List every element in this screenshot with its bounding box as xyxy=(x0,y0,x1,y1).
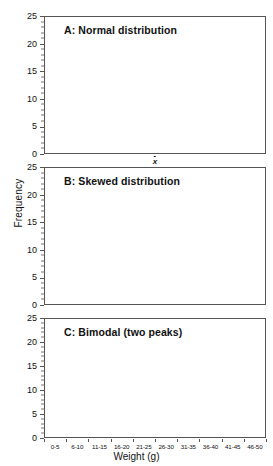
y-minor-tick xyxy=(41,238,44,239)
x-tick-label: 0-5 xyxy=(51,443,60,450)
y-minor-tick xyxy=(41,293,44,294)
y-minor-tick xyxy=(41,65,44,66)
y-minor-tick xyxy=(41,76,44,77)
y-minor-tick xyxy=(41,54,44,55)
y-minor-tick xyxy=(41,433,44,434)
y-minor-tick xyxy=(41,216,44,217)
y-tick-label: 5 xyxy=(32,121,44,131)
y-minor-tick xyxy=(41,288,44,289)
y-minor-tick xyxy=(41,120,44,121)
y-minor-tick xyxy=(41,409,44,410)
y-minor-tick xyxy=(41,137,44,138)
y-minor-tick xyxy=(41,266,44,267)
y-minor-tick xyxy=(41,211,44,212)
x-tick-label: 21-25 xyxy=(136,443,151,450)
y-minor-tick xyxy=(41,428,44,429)
y-tick-label: 25 xyxy=(27,11,44,21)
y-minor-tick xyxy=(41,200,44,201)
y-tick-label: 25 xyxy=(27,162,44,172)
y-minor-tick xyxy=(41,244,44,245)
y-minor-tick xyxy=(41,361,44,362)
y-minor-tick xyxy=(41,205,44,206)
x-tick-label: 46-50 xyxy=(247,443,262,450)
panel-a: 0510152025 A: Normal distribution xyxy=(44,16,266,154)
x-tick-mark xyxy=(44,439,45,442)
y-tick-label: 0 xyxy=(32,300,44,310)
panel-b-caption: B: Skewed distribution xyxy=(64,175,180,187)
x-tick-mark xyxy=(88,439,89,442)
x-tick-mark xyxy=(111,439,112,442)
y-tick-label: 15 xyxy=(27,217,44,227)
y-minor-tick xyxy=(41,260,44,261)
y-minor-tick xyxy=(41,385,44,386)
y-minor-tick xyxy=(41,148,44,149)
y-minor-tick xyxy=(41,370,44,371)
y-minor-tick xyxy=(41,183,44,184)
panel-a-frame xyxy=(44,16,266,154)
y-tick-label: 10 xyxy=(27,94,44,104)
panel-c-caption: C: Bimodal (two peaks) xyxy=(64,326,182,338)
x-tick-label: 31-35 xyxy=(181,443,196,450)
y-minor-tick xyxy=(41,423,44,424)
x-axis-tick-labels: 0-56-1011-1516-2021-2526-3031-3536-4041-… xyxy=(44,439,266,451)
y-minor-tick xyxy=(41,394,44,395)
x-tick-mark xyxy=(199,439,200,442)
panel-b-frame xyxy=(44,167,266,305)
y-minor-tick xyxy=(41,404,44,405)
y-minor-tick xyxy=(41,104,44,105)
panel-a-y-ticks: 0510152025 xyxy=(0,16,44,154)
y-minor-tick xyxy=(41,380,44,381)
y-minor-tick xyxy=(41,178,44,179)
y-tick-label: 20 xyxy=(27,39,44,49)
panel-b: 0510152025 B: Skewed distribution xyxy=(44,167,266,305)
panel-c: 0510152025 C: Bimodal (two peaks) xyxy=(44,318,266,438)
y-tick-label: 5 xyxy=(32,272,44,282)
y-minor-tick xyxy=(41,351,44,352)
y-minor-tick xyxy=(41,399,44,400)
y-minor-tick xyxy=(41,142,44,143)
y-minor-tick xyxy=(41,93,44,94)
y-minor-tick xyxy=(41,299,44,300)
y-minor-tick xyxy=(41,418,44,419)
x-tick-mark xyxy=(177,439,178,442)
x-tick-mark xyxy=(155,439,156,442)
y-minor-tick xyxy=(41,282,44,283)
mean-symbol-label: x xyxy=(153,156,157,166)
x-tick-mark xyxy=(222,439,223,442)
y-minor-tick xyxy=(41,322,44,323)
panel-a-caption: A: Normal distribution xyxy=(64,24,177,36)
y-tick-label: 20 xyxy=(27,190,44,200)
y-minor-tick xyxy=(41,337,44,338)
y-minor-tick xyxy=(41,49,44,50)
y-tick-label: 10 xyxy=(27,245,44,255)
y-minor-tick xyxy=(41,346,44,347)
histogram-figure: Frequency 0510152025 A: Normal distribut… xyxy=(0,0,273,466)
y-tick-label: 15 xyxy=(27,66,44,76)
y-minor-tick xyxy=(41,115,44,116)
y-minor-tick xyxy=(41,233,44,234)
x-tick-label: 11-15 xyxy=(92,443,107,450)
y-minor-tick xyxy=(41,60,44,61)
x-tick-label: 36-40 xyxy=(203,443,218,450)
y-minor-tick xyxy=(41,189,44,190)
panel-b-y-ticks: 0510152025 xyxy=(0,167,44,305)
x-tick-label: 26-30 xyxy=(158,443,173,450)
x-tick-label: 16-20 xyxy=(114,443,129,450)
x-tick-label: 6-10 xyxy=(71,443,83,450)
x-tick-mark xyxy=(133,439,134,442)
y-minor-tick xyxy=(41,87,44,88)
y-minor-tick xyxy=(41,21,44,22)
y-minor-tick xyxy=(41,271,44,272)
y-minor-tick xyxy=(41,332,44,333)
y-minor-tick xyxy=(41,375,44,376)
y-minor-tick xyxy=(41,82,44,83)
y-minor-tick xyxy=(41,356,44,357)
y-minor-tick xyxy=(41,27,44,28)
y-minor-tick xyxy=(41,172,44,173)
y-minor-tick xyxy=(41,32,44,33)
panel-c-y-ticks: 0510152025 xyxy=(0,318,44,438)
x-tick-mark xyxy=(266,439,267,442)
y-minor-tick xyxy=(41,227,44,228)
y-minor-tick xyxy=(41,131,44,132)
x-tick-label: 41-45 xyxy=(225,443,240,450)
